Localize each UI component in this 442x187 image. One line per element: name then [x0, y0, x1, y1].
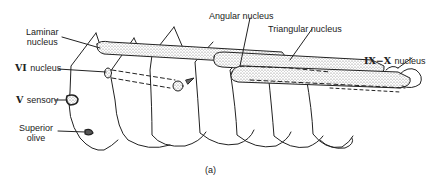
- label-v-sensory: V sensory: [16, 95, 58, 105]
- label-ix-x-word: nucleus: [394, 56, 425, 66]
- label-vi-word: nucleus: [30, 63, 61, 73]
- label-ix-x-nucleus: IX−X nucleus: [364, 56, 426, 66]
- brainstem-section-diagram: [0, 0, 442, 187]
- label-triangular-nucleus: Triangular nucleus: [268, 24, 342, 34]
- label-laminar-nucleus: Laminar nucleus: [26, 27, 59, 47]
- label-vi-roman: VI: [15, 62, 27, 73]
- superior-olive-shape: [85, 129, 93, 134]
- label-v-roman: V: [16, 94, 23, 105]
- label-superior-olive: Superior olive: [19, 123, 53, 143]
- label-laminar-line2: nucleus: [26, 37, 59, 47]
- figure-caption: (a): [205, 165, 216, 175]
- label-superior-olive-line2: olive: [19, 133, 53, 143]
- label-superior-olive-line1: Superior: [19, 123, 53, 133]
- v-sensory-shape: [66, 95, 78, 105]
- label-v-word: sensory: [27, 95, 59, 105]
- label-ix-x-roman: IX−X: [364, 55, 391, 66]
- vi-nucleus-shape: [105, 68, 112, 78]
- label-angular-nucleus: Angular nucleus: [209, 11, 274, 21]
- label-vi-nucleus: VI nucleus: [15, 63, 61, 73]
- label-laminar-line1: Laminar: [26, 27, 59, 37]
